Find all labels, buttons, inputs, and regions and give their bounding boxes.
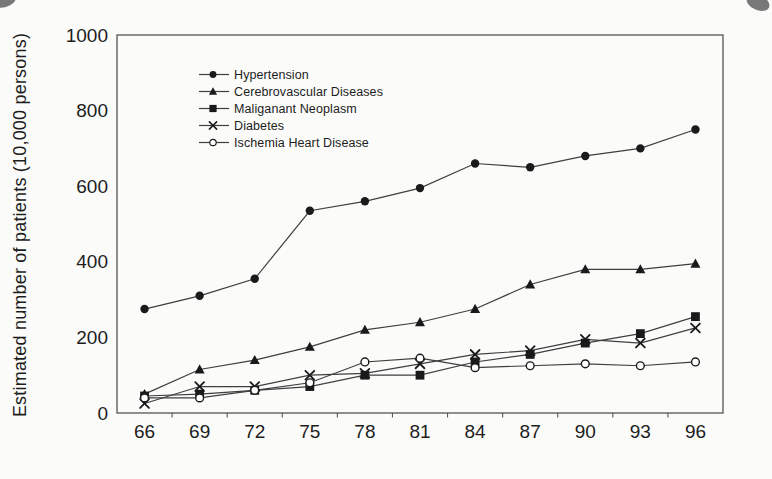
hypertension-marker — [636, 144, 644, 152]
legend-label-cerebrovascular-diseases: Cerebrovascular Diseases — [234, 85, 383, 99]
x-tick-label: 69 — [189, 421, 210, 442]
x-tick-label: 87 — [520, 421, 541, 442]
x-tick-label: 84 — [465, 421, 487, 442]
hypertension-marker — [526, 163, 534, 171]
cerebrovascular-diseases-marker — [470, 304, 480, 313]
diabetes-marker — [691, 324, 700, 333]
hypertension-marker — [691, 125, 699, 133]
y-tick-label: 800 — [76, 100, 108, 121]
open-circle-icon — [199, 136, 229, 149]
y-tick-label: 200 — [76, 327, 108, 348]
legend-filled-circle — [210, 71, 217, 78]
legend-item-ischemia-heart-disease: Ischemia Heart Disease — [199, 134, 383, 151]
legend-item-hypertension: Hypertension — [199, 66, 383, 83]
legend-label-hypertension: Hypertension — [234, 68, 309, 82]
y-tick-label: 400 — [76, 251, 108, 272]
legend-label-maliganant-neoplasm: Maliganant Neoplasm — [234, 102, 357, 116]
ischemia-heart-disease-marker — [581, 360, 589, 368]
ischemia-heart-disease-marker — [471, 364, 479, 372]
legend-item-maliganant-neoplasm: Maliganant Neoplasm — [199, 100, 383, 117]
ischemia-heart-disease-marker — [692, 358, 700, 366]
filled-triangle-icon — [199, 85, 229, 98]
ischemia-heart-disease-marker — [196, 394, 204, 402]
ischemia-heart-disease-marker — [361, 358, 369, 366]
ischemia-heart-disease-marker — [636, 362, 644, 370]
legend-item-diabetes: Diabetes — [199, 117, 383, 134]
filled-circle-icon — [199, 68, 229, 81]
y-tick-label: 1000 — [66, 25, 108, 46]
legend-label-ischemia-heart-disease: Ischemia Heart Disease — [234, 136, 369, 150]
filled-square-icon — [199, 102, 229, 115]
hypertension-marker — [416, 184, 424, 192]
hypertension-marker — [306, 207, 314, 215]
y-tick-label: 600 — [76, 176, 108, 197]
maliganant-neoplasm-marker — [416, 371, 425, 380]
legend-open-circle — [210, 139, 216, 145]
x-tick-label: 78 — [354, 421, 375, 442]
hypertension-marker — [361, 197, 369, 205]
x-tick-label: 75 — [299, 421, 320, 442]
cerebrovascular-diseases-marker — [690, 258, 700, 267]
ischemia-heart-disease-marker — [251, 386, 259, 394]
hypertension-marker — [251, 275, 259, 283]
legend-item-cerebrovascular-diseases: Cerebrovascular Diseases — [199, 83, 383, 100]
hypertension-marker — [471, 159, 479, 167]
ischemia-heart-disease-marker — [526, 362, 534, 370]
x-tick-label: 66 — [134, 421, 155, 442]
maliganant-neoplasm-marker — [691, 312, 700, 321]
x-cross-icon — [199, 119, 229, 132]
x-tick-label: 72 — [244, 421, 265, 442]
hypertension-marker — [195, 292, 203, 300]
y-tick-label: 0 — [97, 403, 108, 424]
series-line-hypertension — [145, 130, 696, 310]
ischemia-heart-disease-marker — [416, 354, 424, 362]
legend: Hypertension Cerebrovascular Diseases Ma… — [199, 66, 383, 151]
ischemia-heart-disease-marker — [141, 394, 149, 402]
x-tick-label: 90 — [575, 421, 596, 442]
hypertension-marker — [140, 305, 148, 313]
hypertension-marker — [581, 152, 589, 160]
legend-filled-square — [209, 105, 216, 112]
ischemia-heart-disease-marker — [306, 379, 314, 387]
x-tick-label: 81 — [409, 421, 430, 442]
maliganant-neoplasm-marker — [636, 329, 645, 338]
x-tick-label: 93 — [630, 421, 651, 442]
x-tick-label: 96 — [685, 421, 706, 442]
legend-label-diabetes: Diabetes — [234, 119, 284, 133]
series-markers-hypertension — [140, 125, 699, 313]
